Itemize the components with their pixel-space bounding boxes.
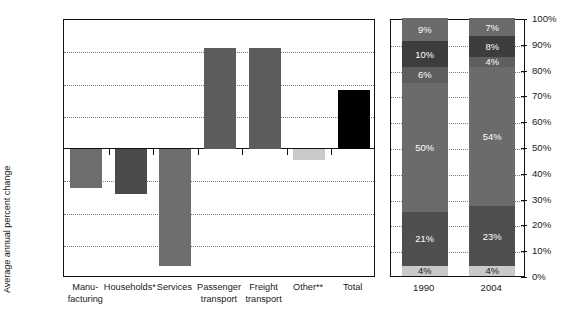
bar-chart-bar-rect: [204, 48, 236, 149]
stacked-chart-panel: 4%21%50%6%10%9%4%23%54%4%8%7% 100%90%80%…: [386, 0, 572, 313]
stacked-chart-segment: 50%: [402, 83, 448, 212]
stacked-chart-y-tick-mark: [521, 19, 527, 20]
bar-chart-bar: [293, 20, 325, 278]
bar-chart-bar: [115, 20, 147, 278]
stacked-chart-segment: 6%: [402, 67, 448, 82]
stacked-chart-y-tick-mark: [521, 225, 527, 226]
bar-chart-x-label-line: Total: [326, 282, 379, 294]
stacked-chart-segment: 54%: [469, 67, 515, 206]
stacked-chart-segment: 21%: [402, 212, 448, 266]
stacked-chart-plot-area: 4%21%50%6%10%9%4%23%54%4%8%7%: [390, 19, 525, 277]
stacked-chart-x-label: 2004: [458, 282, 526, 293]
stacked-chart-segment: 10%: [402, 41, 448, 67]
stacked-chart-y-tick-label: 0%: [532, 271, 572, 282]
stacked-chart-segment: 9%: [402, 18, 448, 41]
stacked-chart-y-tick-label: 20%: [532, 219, 572, 230]
stacked-chart-column: 4%21%50%6%10%9%: [402, 18, 448, 276]
bar-chart-bar-rect: [70, 149, 102, 188]
stacked-chart-y-tick-label: 100%: [532, 13, 572, 24]
stacked-chart-y-tick-mark: [521, 71, 527, 72]
stacked-chart-y-tick-mark: [521, 148, 527, 149]
stacked-chart-y-tick-mark: [521, 45, 527, 46]
bar-chart-x-tick-mark: [153, 149, 154, 155]
stacked-chart-y-tick-mark: [521, 174, 527, 175]
bar-chart-bar: [70, 20, 102, 278]
stacked-chart-y-tick-mark: [521, 277, 527, 278]
stacked-chart-y-tick-label: 90%: [532, 39, 572, 50]
bar-chart-bar-rect: [338, 90, 370, 149]
stacked-chart-segment: 4%: [469, 57, 515, 67]
bar-chart-bar-rect: [115, 149, 147, 194]
bar-chart-bar: [338, 20, 370, 278]
bar-chart-x-tick-mark: [109, 149, 110, 155]
stacked-chart-segment: 4%: [469, 266, 515, 276]
bar-chart-x-tick-mark: [198, 149, 199, 155]
stacked-chart-y-tick-label: 70%: [532, 90, 572, 101]
bar-chart-bar: [204, 20, 236, 278]
bar-chart-x-label-line: transport: [237, 294, 290, 306]
stacked-chart-segment: 8%: [469, 36, 515, 57]
stacked-chart-segment: 23%: [469, 206, 515, 265]
stacked-chart-y-tick-mark: [521, 122, 527, 123]
bar-chart-plot-area: [63, 19, 375, 277]
stacked-chart-y-tick-mark: [521, 200, 527, 201]
bar-chart-x-label: Total: [326, 282, 379, 294]
bar-chart-bar: [249, 20, 281, 278]
bar-chart-x-tick-mark: [287, 149, 288, 155]
bar-chart-x-label-line: facturing: [59, 294, 112, 306]
stacked-chart-y-tick-label: 30%: [532, 194, 572, 205]
stacked-chart-y-tick-mark: [521, 251, 527, 252]
stacked-chart-y-tick-label: 10%: [532, 245, 572, 256]
bar-chart-bar: [159, 20, 191, 278]
stacked-chart-segment: 7%: [469, 18, 515, 36]
stacked-chart-y-tick-mark: [521, 96, 527, 97]
bar-chart-x-tick-mark: [242, 149, 243, 155]
stacked-chart-y-tick-label: 60%: [532, 116, 572, 127]
stacked-chart-x-label: 1990: [390, 282, 458, 293]
stacked-chart-column: 4%23%54%4%8%7%: [469, 18, 515, 276]
stacked-chart-y-tick-label: 80%: [532, 65, 572, 76]
bar-chart-bar-rect: [293, 149, 325, 160]
bar-chart-bar-rect: [159, 149, 191, 266]
bar-chart-x-tick-mark: [331, 149, 332, 155]
stacked-chart-y-tick-label: 40%: [532, 168, 572, 179]
bar-chart-bar-rect: [249, 48, 281, 149]
stacked-chart-segment: 4%: [402, 266, 448, 276]
stacked-chart-y-tick-label: 50%: [532, 142, 572, 153]
bar-chart-panel: Average annual percent change 2.0%1.5%1.…: [0, 0, 378, 313]
